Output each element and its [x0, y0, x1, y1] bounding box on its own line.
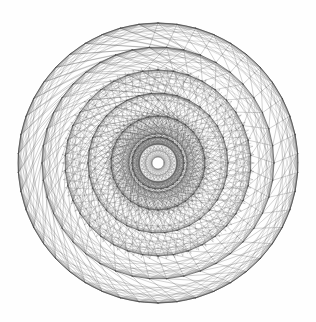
- mandala-diagram: [0, 0, 316, 322]
- figure-container: f(n)=fa: [0, 0, 316, 322]
